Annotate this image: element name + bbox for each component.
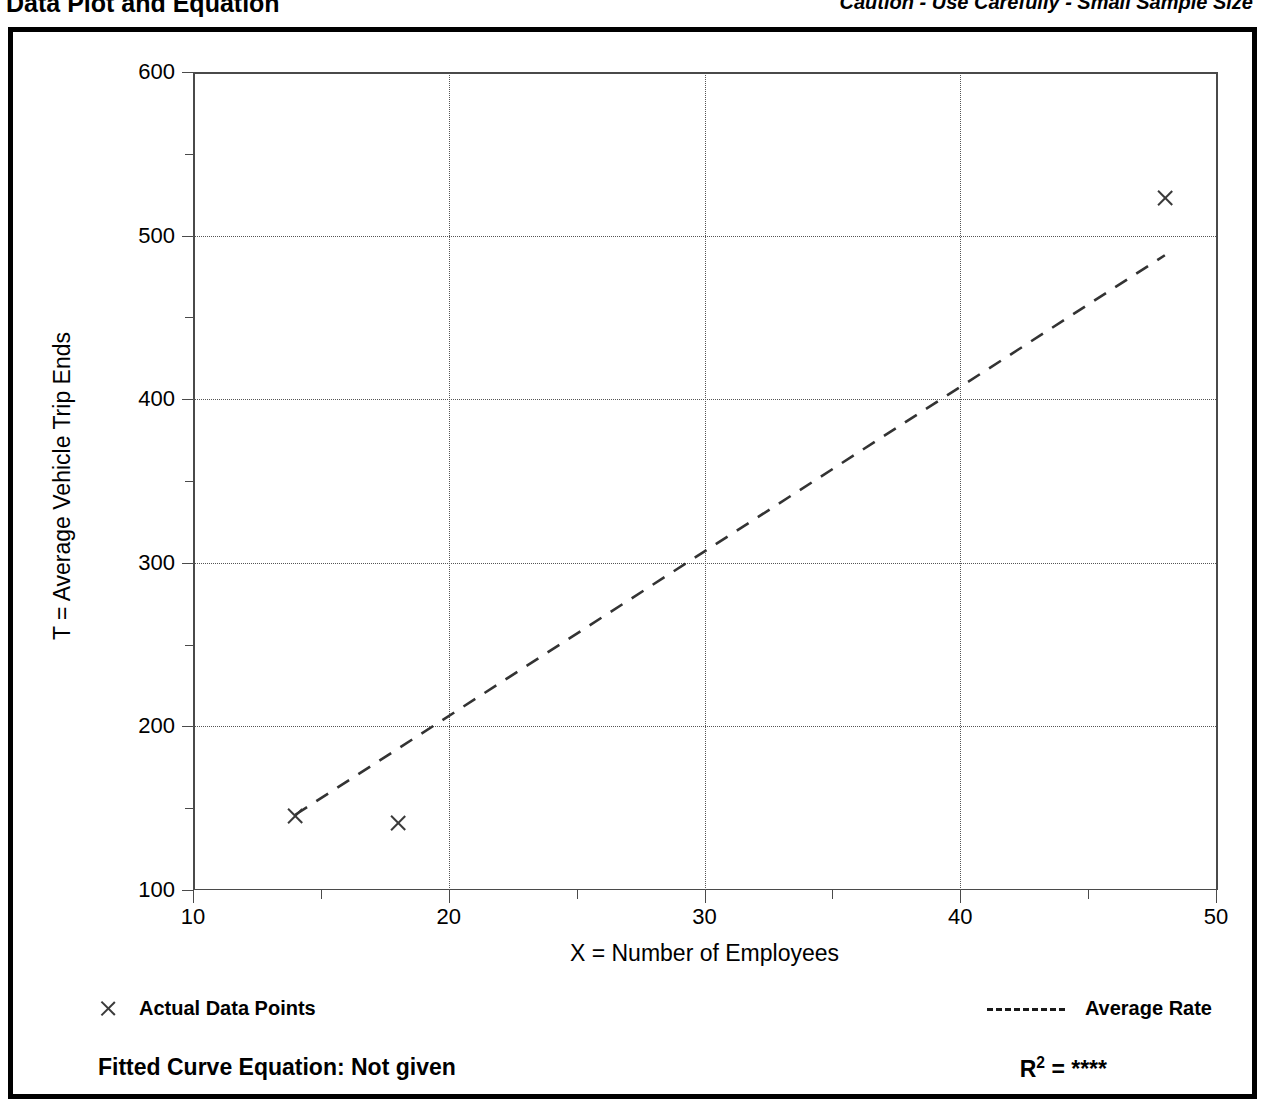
chart-legend: Actual Data Points Average Rate	[13, 997, 1252, 1039]
legend-label-average-rate: Average Rate	[1085, 997, 1212, 1020]
x-tick-label: 20	[437, 904, 461, 930]
equation-row: Fitted Curve Equation: Not given R2 = **…	[13, 1054, 1252, 1098]
page-header: Data Plot and Equation Caution - Use Car…	[0, 0, 1265, 24]
x-tick-label: 50	[1204, 904, 1228, 930]
r-squared-exponent: 2	[1036, 1054, 1045, 1071]
y-tick-major	[182, 890, 193, 891]
x-axis-title: X = Number of Employees	[193, 940, 1216, 967]
y-axis-title: T = Average Vehicle Trip Ends	[49, 332, 76, 640]
y-tick-minor	[185, 808, 193, 809]
y-tick-major	[182, 726, 193, 727]
y-tick-major	[182, 399, 193, 400]
fitted-curve-equation: Fitted Curve Equation: Not given	[98, 1054, 456, 1081]
y-tick-label: 200	[138, 713, 175, 739]
plot-box: 1002003004005006001020304050	[193, 72, 1216, 890]
x-tick-major	[193, 890, 194, 903]
x-tick-minor	[1088, 890, 1089, 899]
r-squared-number: = ****	[1051, 1056, 1107, 1082]
x-tick-minor	[321, 890, 322, 899]
r-squared-value: R2 = ****	[1020, 1054, 1107, 1083]
y-tick-label: 300	[138, 550, 175, 576]
chart-area: T = Average Vehicle Trip Ends 1002003004…	[13, 32, 1252, 1094]
legend-item-data-points: Actual Data Points	[98, 997, 316, 1020]
y-tick-label: 600	[138, 59, 175, 85]
x-marker-icon	[98, 999, 117, 1018]
y-tick-label: 500	[138, 223, 175, 249]
legend-label-data-points: Actual Data Points	[139, 997, 316, 1020]
x-tick-major	[449, 890, 450, 903]
x-tick-major	[705, 890, 706, 903]
chart-panel: T = Average Vehicle Trip Ends 1002003004…	[8, 27, 1257, 1099]
y-tick-label: 400	[138, 386, 175, 412]
x-tick-label: 40	[948, 904, 972, 930]
y-tick-major	[182, 236, 193, 237]
x-tick-label: 10	[181, 904, 205, 930]
y-tick-minor	[185, 154, 193, 155]
y-tick-minor	[185, 317, 193, 318]
caution-note: Caution - Use Carefully - Small Sample S…	[840, 0, 1253, 14]
r-squared-symbol: R	[1020, 1056, 1037, 1082]
y-tick-major	[182, 72, 193, 73]
y-tick-minor	[185, 481, 193, 482]
average-rate-trendline	[193, 72, 1216, 890]
y-tick-label: 100	[138, 877, 175, 903]
x-tick-minor	[577, 890, 578, 899]
x-tick-label: 30	[692, 904, 716, 930]
y-tick-major	[182, 563, 193, 564]
dashed-line-icon	[987, 1008, 1065, 1011]
plot-right-border	[1216, 72, 1218, 890]
legend-item-average-rate: Average Rate	[987, 997, 1212, 1020]
x-tick-major	[960, 890, 961, 903]
x-tick-minor	[832, 890, 833, 899]
y-tick-minor	[185, 645, 193, 646]
x-tick-major	[1216, 890, 1217, 903]
page-title: Data Plot and Equation	[6, 0, 280, 18]
